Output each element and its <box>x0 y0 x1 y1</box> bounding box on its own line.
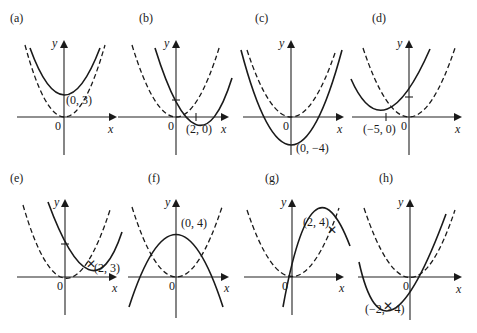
x-axis-arrow-icon <box>336 273 344 281</box>
x-axis-label: x <box>223 281 230 295</box>
origin-label: 0 <box>168 119 174 133</box>
vertex-label: (2, 4) <box>303 215 329 229</box>
parabola-transformations-figure: (a) y x 0 (0, 3) (b) y x 0 (2, 0) (c) y … <box>0 0 477 333</box>
y-axis-label: y <box>163 36 170 50</box>
panel-label: (b) <box>139 11 153 25</box>
origin-label: 0 <box>283 119 289 133</box>
origin-label: 0 <box>403 279 409 293</box>
panel-g: (g) y x 0 (2, 4) ✕ <box>244 171 350 315</box>
panel-c: (c) y x 0 (0, −4) <box>241 11 344 155</box>
vertex-marker-icon: ✕ <box>86 257 96 271</box>
origin-label: 0 <box>401 119 407 133</box>
vertex-label: (0, 3) <box>66 93 92 107</box>
y-axis-arrow-icon <box>405 40 413 48</box>
y-axis-label: y <box>280 195 287 209</box>
y-axis-arrow-icon <box>61 199 69 207</box>
x-axis-label: x <box>111 281 118 295</box>
vertex-label: (−5, 0) <box>363 122 396 136</box>
vertex-label: (0, −4) <box>296 141 329 155</box>
y-axis-label: y <box>53 195 60 209</box>
y-axis-arrow-icon <box>172 40 180 48</box>
y-axis-arrow-icon <box>60 40 68 48</box>
x-axis-arrow-icon <box>221 113 229 121</box>
reference-parabola <box>25 45 105 117</box>
y-axis-arrow-icon <box>172 199 180 207</box>
vertex-marker-icon: ✕ <box>327 223 337 237</box>
panel-label: (g) <box>265 171 279 185</box>
panel-f: (f) y x 0 (0, 4) <box>128 171 230 318</box>
x-axis-label: x <box>454 122 461 136</box>
panel-h: (h) y x 0 (−2, −4) ✕ <box>358 171 462 320</box>
y-axis-label: y <box>396 36 403 50</box>
y-axis-label: y <box>397 195 404 209</box>
y-axis-arrow-icon <box>287 40 295 48</box>
vertex-marker-icon: ✕ <box>383 299 393 313</box>
x-axis-arrow-icon <box>454 113 462 121</box>
x-axis-arrow-icon <box>109 113 117 121</box>
origin-label: 0 <box>57 279 63 293</box>
transformed-parabola <box>155 48 232 125</box>
y-axis-arrow-icon <box>288 199 296 207</box>
transformed-parabola <box>359 214 446 311</box>
panel-a: (a) y x 0 (0, 3) <box>10 11 117 155</box>
x-axis-label: x <box>455 282 462 296</box>
panel-label: (d) <box>372 11 386 25</box>
panel-d: (d) y x 0 (−5, 0) <box>351 11 462 155</box>
transformed-parabola <box>351 49 430 110</box>
origin-label: 0 <box>55 119 61 133</box>
x-axis-arrow-icon <box>221 273 229 281</box>
x-axis-arrow-icon <box>454 273 462 281</box>
x-axis-label: x <box>220 122 227 136</box>
vertex-label: (0, 4) <box>181 216 207 230</box>
x-axis-arrow-icon <box>336 113 344 121</box>
x-axis-label: x <box>107 122 114 136</box>
panel-label: (h) <box>379 171 393 185</box>
x-axis-label: x <box>338 281 345 295</box>
panel-b: (b) y x 0 (2, 0) <box>118 11 232 155</box>
y-axis-arrow-icon <box>406 199 414 207</box>
vertex-label: (2, 0) <box>186 122 212 136</box>
y-axis-label: y <box>164 195 171 209</box>
panel-label: (f) <box>148 171 160 185</box>
origin-label: 0 <box>169 279 175 293</box>
vertex-label: (2, 3) <box>94 261 120 275</box>
panel-label: (a) <box>10 11 23 25</box>
y-axis-label: y <box>51 36 58 50</box>
panel-label: (c) <box>255 11 268 25</box>
panel-label: (e) <box>10 171 23 185</box>
panel-e: (e) y x 0 (2, 3) ✕ <box>10 171 122 315</box>
x-axis-label: x <box>336 122 343 136</box>
transformed-parabola <box>30 48 100 95</box>
y-axis-label: y <box>278 36 285 50</box>
